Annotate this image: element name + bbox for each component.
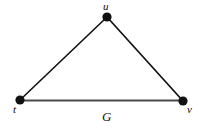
node-label-t: t — [13, 104, 16, 115]
figure-caption: G — [102, 110, 111, 123]
figure-container: u t v G — [0, 0, 204, 129]
node-label-v: v — [187, 104, 192, 115]
node-label-u: u — [103, 1, 109, 12]
node-u — [102, 12, 111, 21]
node-t — [15, 95, 24, 104]
